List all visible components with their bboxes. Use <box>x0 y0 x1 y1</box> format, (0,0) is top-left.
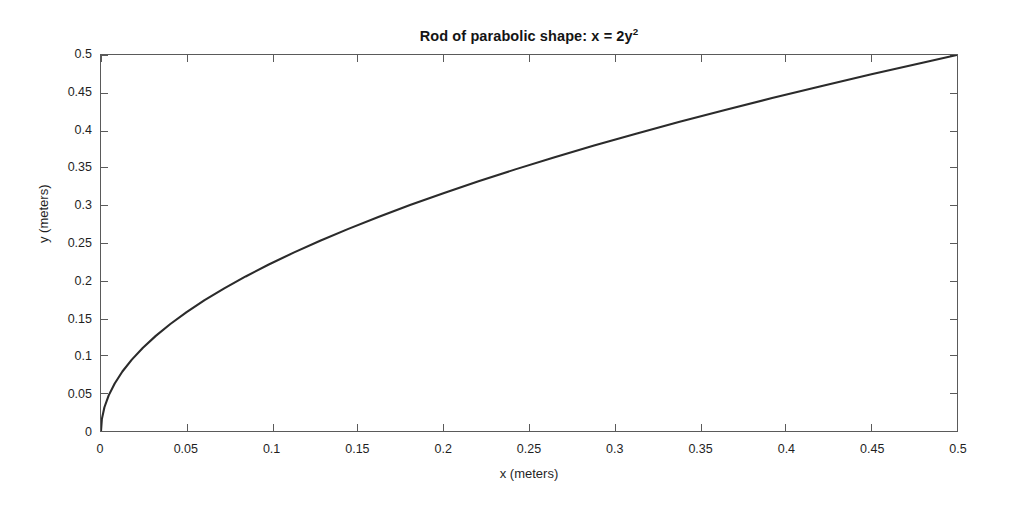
x-tick-label: 0.45 <box>860 442 884 456</box>
chart-title-text: Rod of parabolic shape: x = 2y <box>420 28 633 44</box>
y-tick-label: 0.25 <box>44 236 92 250</box>
x-axis-label: x (meters) <box>100 466 958 481</box>
y-tick-label: 0.5 <box>44 47 92 61</box>
x-tick-label: 0.2 <box>434 442 451 456</box>
y-tick-label: 0.3 <box>44 198 92 212</box>
y-tick-label: 0.35 <box>44 160 92 174</box>
x-tick-label: 0.15 <box>345 442 369 456</box>
x-tick-label: 0 <box>97 442 104 456</box>
plot-svg <box>101 55 957 431</box>
y-tick-label: 0 <box>44 425 92 439</box>
x-tick-label: 0.1 <box>263 442 280 456</box>
x-tick-label: 0.35 <box>688 442 712 456</box>
y-tick-label: 0.15 <box>44 312 92 326</box>
figure-canvas: Rod of parabolic shape: x = 2y2 00.050.1… <box>0 0 1012 505</box>
y-tick-label: 0.1 <box>44 349 92 363</box>
x-tick-label: 0.4 <box>778 442 795 456</box>
data-curve-parabolic-rod <box>101 55 957 431</box>
y-axis-label: y (meters) <box>36 185 51 244</box>
plot-area <box>100 54 958 432</box>
axis-tick-marks <box>101 55 957 431</box>
y-tick-label: 0.45 <box>44 85 92 99</box>
x-tick-label: 0.5 <box>949 442 966 456</box>
chart-title: Rod of parabolic shape: x = 2y2 <box>100 28 958 44</box>
y-tick-label: 0.05 <box>44 387 92 401</box>
x-tick-label: 0.05 <box>174 442 198 456</box>
y-tick-label: 0.2 <box>44 274 92 288</box>
chart-title-exponent: 2 <box>633 26 639 37</box>
x-tick-label: 0.3 <box>606 442 623 456</box>
x-tick-label: 0.25 <box>517 442 541 456</box>
y-tick-label: 0.4 <box>44 123 92 137</box>
